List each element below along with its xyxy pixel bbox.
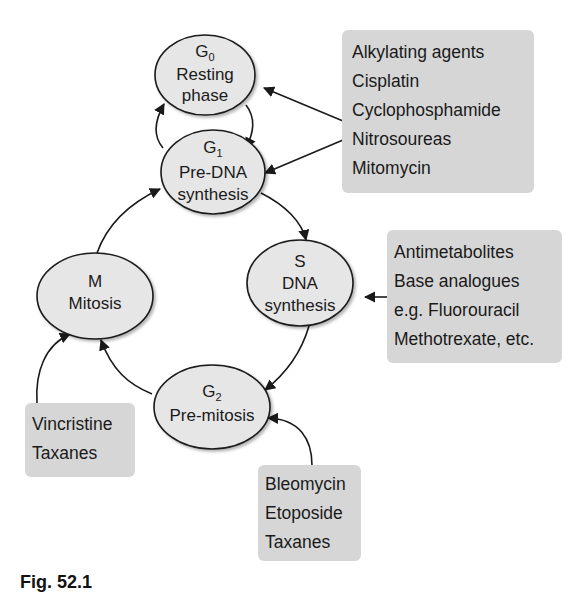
drug-box-antimetabolites: Antimetabolites Base analogues e.g. Fluo… <box>387 230 562 363</box>
drug-item: Cyclophosphamide <box>352 96 524 125</box>
drug-item: Alkylating agents <box>352 38 524 67</box>
phase-g0: G0 Resting phase <box>155 35 255 115</box>
arrow-alkylating-to-g1 <box>265 140 343 173</box>
drug-item: Mitomycin <box>352 154 524 183</box>
arrow-g2-to-m <box>101 340 152 394</box>
arrow-m-to-g1 <box>97 189 160 253</box>
drug-item: Taxanes <box>32 439 125 468</box>
g0-label-line2: phase <box>182 86 228 105</box>
phase-m: M Mitosis <box>37 253 153 339</box>
arrow-s-to-g2 <box>265 326 309 390</box>
arrow-g1-to-s <box>261 193 306 240</box>
figure-caption: Fig. 52.1 <box>20 572 92 593</box>
g0-subscript: 0 <box>209 51 215 63</box>
g1-subscript: 1 <box>217 147 223 159</box>
g1-label-line2: synthesis <box>178 185 249 204</box>
phase-s: S DNA synthesis <box>247 240 353 326</box>
drug-item: Nitrosoureas <box>352 125 524 154</box>
g2-label-line1: Pre-mitosis <box>169 406 254 425</box>
g0-label-line1: Resting <box>176 65 234 84</box>
phase-g2: G2 Pre-mitosis <box>154 365 270 449</box>
drug-item: e.g. Fluorouracil <box>394 296 552 325</box>
drug-item: Bleomycin <box>265 470 351 499</box>
s-label-line2: synthesis <box>265 296 336 315</box>
m-label-line1: Mitosis <box>69 294 122 313</box>
g0-symbol: G <box>195 42 208 61</box>
m-symbol: M <box>88 272 102 291</box>
drug-item: Antimetabolites <box>394 238 552 267</box>
drug-box-alkylating: Alkylating agents Cisplatin Cyclophospha… <box>342 30 534 193</box>
drug-box-g2-agents: Bleomycin Etoposide Taxanes <box>258 465 361 561</box>
arrow-g2agents-to-g2 <box>268 418 312 465</box>
g2-subscript: 2 <box>216 391 222 403</box>
g2-symbol: G <box>202 382 215 401</box>
arrow-g1-to-g0 <box>156 104 164 148</box>
drug-item: Cisplatin <box>352 67 524 96</box>
drug-item: Base analogues <box>394 267 552 296</box>
phase-g1: G1 Pre-DNA synthesis <box>161 130 265 214</box>
s-symbol: S <box>294 252 305 271</box>
g1-label-line1: Pre-DNA <box>179 163 248 182</box>
arrow-alkylating-to-g0 <box>264 88 343 121</box>
s-label-line1: DNA <box>282 274 319 293</box>
drug-item: Taxanes <box>265 528 351 557</box>
drug-item: Etoposide <box>265 499 351 528</box>
drug-box-mitotic: Vincristine Taxanes <box>25 403 135 477</box>
drug-item: Vincristine <box>32 410 125 439</box>
drug-item: Methotrexate, etc. <box>394 325 552 354</box>
arrow-mitotic-to-m <box>37 334 70 403</box>
g1-symbol: G <box>203 138 216 157</box>
